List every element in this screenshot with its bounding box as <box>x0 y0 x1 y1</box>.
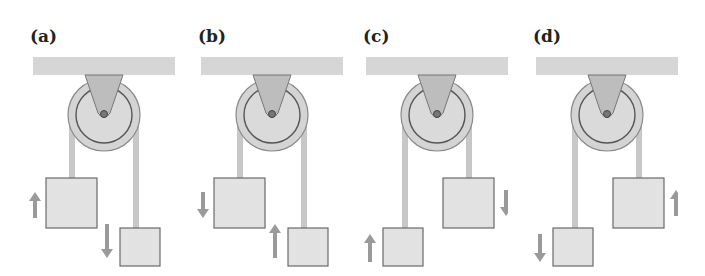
panel-a: (a) <box>0 0 175 276</box>
pulley-axle <box>434 111 441 118</box>
arrow-up-icon <box>670 190 678 216</box>
arrow-up-icon <box>29 192 41 218</box>
arrow-down-icon <box>534 234 546 262</box>
block-right <box>443 178 494 228</box>
block-left <box>553 228 593 266</box>
arrow-down-icon <box>101 224 113 258</box>
arrow-up-icon <box>269 224 281 258</box>
pulley-diagram <box>168 0 343 276</box>
arrow-down-icon <box>197 192 209 218</box>
pulley-axle <box>604 111 611 118</box>
panel-d: (d) <box>503 0 678 276</box>
block-left <box>383 228 423 266</box>
block-left <box>46 178 97 228</box>
panel-c: (c) <box>333 0 508 276</box>
panel-b: (b) <box>168 0 343 276</box>
block-left <box>214 178 265 228</box>
block-right <box>120 228 160 266</box>
pulley-diagram <box>333 0 508 276</box>
ceiling <box>366 57 508 75</box>
ceiling <box>201 57 343 75</box>
ceiling <box>33 57 175 75</box>
pulley-axle <box>101 111 108 118</box>
pulley-diagram <box>0 0 175 276</box>
block-right <box>288 228 328 266</box>
arrow-up-icon <box>364 234 376 262</box>
ceiling <box>536 57 678 75</box>
block-right <box>613 178 664 228</box>
pulley-diagram <box>503 0 678 276</box>
pulley-axle <box>269 111 276 118</box>
